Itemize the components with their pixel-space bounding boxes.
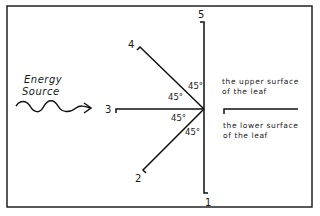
upper-surface-label-line2: of the leaf <box>222 87 267 96</box>
position-1-label: 1 <box>205 197 211 208</box>
lower-surface-label-line2: of the leaf <box>223 131 268 140</box>
position-5-label: 5 <box>198 9 204 20</box>
direction-line-vertical <box>200 22 208 193</box>
angle-label-upper-right: 45° <box>188 81 203 91</box>
leaf-energy-angle-diagram: Energy Source 5 1 3 4 2 45° 45° 45° 45° … <box>0 0 320 216</box>
lower-surface-label-line1: the lower surface <box>223 121 299 130</box>
wavy-arrow-icon <box>16 101 91 113</box>
angle-label-upper-left: 45° <box>168 92 183 102</box>
leaf-surface-divider <box>224 109 298 114</box>
energy-source-label-line1: Energy <box>24 74 63 85</box>
direction-line-horizontal <box>116 109 204 113</box>
border-frame <box>7 6 312 207</box>
position-4-label: 4 <box>128 39 134 50</box>
upper-surface-label-line1: the upper surface <box>222 77 299 86</box>
energy-source-label-line2: Source <box>22 86 60 97</box>
position-2-label: 2 <box>135 173 141 184</box>
angle-label-lower-right: 45° <box>185 127 200 137</box>
position-3-label: 3 <box>105 104 111 115</box>
angle-label-lower-left: 45° <box>171 113 186 123</box>
